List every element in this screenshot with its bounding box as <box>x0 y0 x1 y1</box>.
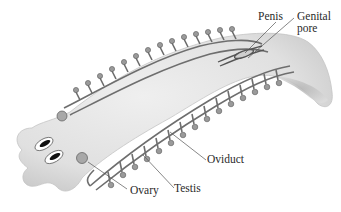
label-ovary: Ovary <box>130 184 159 196</box>
leader-oviduct <box>170 132 206 160</box>
label-oviduct: Oviduct <box>207 153 244 165</box>
flatworm-diagram <box>0 0 341 212</box>
label-penis: Penis <box>258 10 283 22</box>
label-testis: Testis <box>174 182 201 194</box>
ovary-lower <box>77 153 88 164</box>
label-genital-pore: Genital pore <box>297 10 331 34</box>
ovary-upper <box>57 111 67 121</box>
